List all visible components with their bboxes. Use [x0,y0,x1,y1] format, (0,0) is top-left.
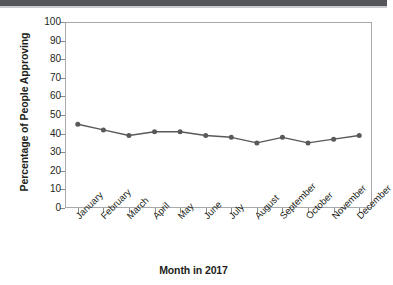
y-tick-label: 90 [21,36,61,46]
y-tick-label: 50 [21,110,61,120]
y-tick-label: 60 [21,91,61,101]
y-tick-label: 0 [21,203,61,213]
plot-area [65,22,372,208]
y-tick-label: 70 [21,73,61,83]
y-tick-label: 20 [21,166,61,176]
y-tick-label: 10 [21,184,61,194]
y-tick-label: 40 [21,129,61,139]
x-axis-title: Month in 2017 [0,264,387,276]
y-tick-label: 80 [21,54,61,64]
y-tick-label: 30 [21,147,61,157]
y-tick-label: 100 [21,17,61,27]
